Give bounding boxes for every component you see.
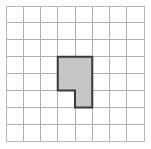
grid-canvas: [0, 0, 151, 149]
grid-shape-figure: [0, 0, 151, 149]
p-shape-polygon: [58, 57, 93, 108]
shape-layer: [58, 57, 93, 108]
